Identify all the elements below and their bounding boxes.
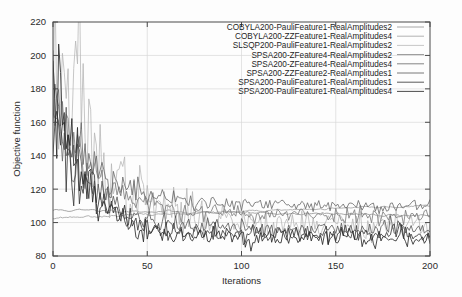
ytick-label-100: 100: [30, 217, 46, 228]
legend-label-7: SPSA200-PauliFeature1-RealAmplitudes4: [238, 87, 392, 96]
ytick-label-140: 140: [30, 150, 46, 161]
y-axis-title: Objective function: [11, 101, 22, 177]
legend-label-6: SPSA200-PauliFeature1-RealAmplitudes1: [238, 78, 392, 87]
legend-label-2: SLSQP200-PauliFeature1-RealAmplitudes2: [233, 41, 393, 50]
ytick-label-220: 220: [30, 16, 46, 27]
ytick-label-180: 180: [30, 83, 46, 94]
ytick-label-80: 80: [35, 250, 46, 261]
ytick-label-120: 120: [30, 184, 46, 195]
legend: COBYLA200-PauliFeature1-RealAmplitudes2C…: [227, 23, 424, 96]
x-axis-title: Iterations: [222, 275, 261, 286]
legend-label-5: SPSA200-ZZFeature2-RealAmplitudes1: [246, 69, 392, 78]
ytick-label-160: 160: [30, 117, 46, 128]
objective-function-chart: 80100120140160180200220050100150200Itera…: [0, 0, 462, 297]
xtick-label-50: 50: [142, 260, 153, 271]
legend-label-3: SPSA200-ZFeature4-RealAmplitudes2: [251, 51, 392, 60]
xtick-label-100: 100: [234, 260, 250, 271]
xtick-label-200: 200: [422, 260, 438, 271]
xtick-label-150: 150: [328, 260, 344, 271]
ytick-label-200: 200: [30, 50, 46, 61]
xtick-label-0: 0: [50, 260, 55, 271]
legend-label-4: SPSA200-ZFeature4-RealAmplitudes4: [251, 60, 392, 69]
chart-canvas: 80100120140160180200220050100150200Itera…: [0, 0, 462, 297]
legend-label-1: COBYLA200-ZZFeature1-RealAmplitudes4: [235, 32, 392, 41]
legend-label-0: COBYLA200-PauliFeature1-RealAmplitudes2: [227, 23, 393, 32]
